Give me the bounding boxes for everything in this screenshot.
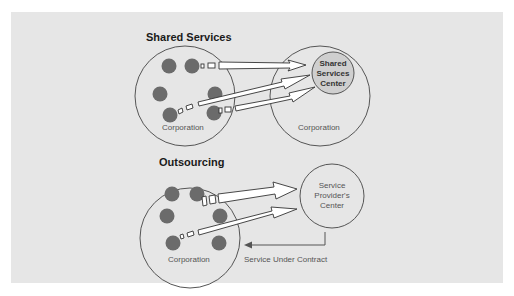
business-unit-dot — [165, 187, 180, 202]
business-unit-dot — [185, 59, 200, 74]
svg-text:Services: Services — [317, 69, 350, 78]
shared-services-center: Shared Services Center — [312, 52, 354, 94]
shared-left-corporation: Corporation — [135, 46, 235, 146]
service-providers-center: Service Provider's Center — [300, 164, 364, 228]
business-unit-dot — [163, 108, 178, 123]
corporation-label: Corporation — [162, 123, 204, 132]
business-unit-dot — [166, 236, 181, 251]
service-under-contract-label: Service Under Contract — [244, 255, 328, 264]
shared-vs-outsourcing-diagram: Shared Services Corporation Corporation … — [0, 0, 514, 296]
corporation-label: Corporation — [168, 255, 210, 264]
business-unit-dot — [212, 236, 227, 251]
shared-services-title: Shared Services — [146, 31, 232, 43]
svg-text:Provider's: Provider's — [314, 191, 349, 200]
business-unit-dot — [162, 59, 177, 74]
business-unit-dot — [213, 209, 228, 224]
svg-text:Service: Service — [319, 181, 346, 190]
business-unit-dot — [153, 87, 168, 102]
svg-text:Center: Center — [320, 79, 345, 88]
svg-text:Center: Center — [320, 201, 344, 210]
outsourcing-arrow-top — [202, 182, 297, 206]
business-unit-dot — [160, 209, 175, 224]
shared-arrow-top — [201, 60, 306, 71]
outsourcing-title: Outsourcing — [159, 156, 224, 168]
outsourcing-arrow-bottom — [180, 207, 297, 239]
svg-text:Shared: Shared — [319, 59, 346, 68]
service-return-arrow — [244, 232, 325, 249]
corporation-label: Corporation — [298, 123, 340, 132]
